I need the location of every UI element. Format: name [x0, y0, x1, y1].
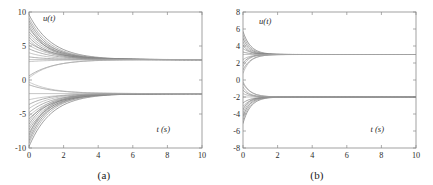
figure-container: 0246810-10-50510u(t)t (s) (a) 0246810-8-… — [0, 0, 433, 185]
trajectory-line — [243, 55, 416, 67]
y-tick-label: -6 — [233, 127, 240, 136]
plot-a: 0246810-10-50510u(t)t (s) — [0, 0, 216, 162]
trajectory-line — [29, 85, 202, 94]
y-axis-label: u(t) — [43, 13, 56, 23]
y-tick-label: 2 — [236, 59, 240, 68]
trajectory-line — [243, 87, 416, 97]
trajectory-line — [29, 94, 202, 130]
y-tick-label: 5 — [22, 42, 26, 51]
y-tick-label: 8 — [236, 8, 240, 17]
trajectory-line — [243, 55, 416, 64]
panel-a: 0246810-10-50510u(t)t (s) (a) — [0, 0, 216, 185]
x-tick-label: 6 — [131, 151, 135, 160]
panel-b-caption: (b) — [209, 169, 425, 181]
trajectories-group — [29, 15, 202, 147]
trajectory-line — [243, 32, 416, 55]
y-tick-label: -5 — [19, 110, 26, 119]
trajectory-line — [243, 45, 416, 54]
y-tick-label: 0 — [22, 76, 26, 85]
y-tick-label: -2 — [233, 93, 240, 102]
y-tick-label: 10 — [18, 8, 26, 17]
plot-b: 0246810-8-6-4-202468u(t)t (s) — [213, 0, 429, 162]
trajectory-line — [243, 97, 416, 110]
x-tick-label: 2 — [62, 151, 66, 160]
x-tick-label: 4 — [310, 151, 314, 160]
panel-a-caption: (a) — [0, 169, 212, 181]
trajectory-line — [243, 38, 416, 54]
trajectory-line — [243, 90, 416, 97]
trajectory-line — [29, 60, 202, 78]
trajectory-line — [243, 52, 416, 55]
x-tick-label: 6 — [345, 151, 349, 160]
x-tick-label: 8 — [165, 151, 169, 160]
trajectory-line — [243, 97, 416, 113]
x-tick-label: 8 — [379, 151, 383, 160]
x-axis-label: t (s) — [156, 124, 170, 134]
trajectory-line — [243, 82, 416, 97]
y-tick-label: 6 — [236, 25, 240, 34]
trajectory-line — [29, 82, 202, 94]
y-tick-label: 4 — [236, 42, 240, 51]
trajectory-line — [243, 83, 416, 97]
trajectory-line — [243, 55, 416, 70]
trajectory-line — [243, 97, 416, 106]
x-tick-label: 0 — [27, 151, 31, 160]
x-tick-label: 4 — [96, 151, 100, 160]
trajectory-line — [29, 94, 202, 138]
x-tick-label: 2 — [276, 151, 280, 160]
trajectory-line — [243, 97, 416, 123]
y-tick-label: 0 — [236, 76, 240, 85]
x-tick-label: 10 — [412, 151, 420, 160]
plot-frame — [29, 12, 202, 148]
y-axis-label: u(t) — [259, 16, 272, 26]
plot-frame — [243, 12, 416, 148]
x-tick-label: 0 — [241, 151, 245, 160]
trajectory-line — [29, 60, 202, 76]
trajectory-line — [29, 32, 202, 60]
trajectory-line — [29, 21, 202, 60]
y-tick-label: -10 — [15, 144, 26, 153]
y-tick-label: -4 — [233, 110, 240, 119]
trajectory-line — [243, 97, 416, 120]
trajectory-line — [243, 42, 416, 55]
x-axis-label: t (s) — [370, 124, 384, 134]
panel-b: 0246810-8-6-4-202468u(t)t (s) (b) — [213, 0, 429, 185]
trajectory-line — [243, 35, 416, 55]
trajectories-group — [243, 32, 416, 124]
trajectory-line — [243, 55, 416, 74]
x-tick-label: 10 — [198, 151, 206, 160]
y-tick-label: -8 — [233, 144, 240, 153]
trajectory-line — [243, 97, 416, 117]
trajectory-line — [29, 40, 202, 60]
